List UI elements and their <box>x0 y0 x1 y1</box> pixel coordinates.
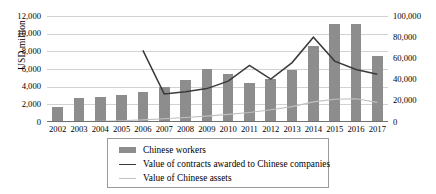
y-axis-right-tick: 100,000 <box>393 12 421 21</box>
x-axis-tick-label: 2011 <box>239 124 260 134</box>
legend-dark-line-swatch-icon <box>119 164 136 165</box>
x-axis-tick-label: 2002 <box>47 124 68 134</box>
x-axis-tick-label: 2014 <box>303 124 324 134</box>
x-axis-tick-label: 2007 <box>154 124 175 134</box>
y-axis-right-tick: 40,000 <box>393 75 417 84</box>
x-axis-tick-label: 2009 <box>196 124 217 134</box>
x-axis-tick-label: 2003 <box>68 124 89 134</box>
legend-bar-swatch-icon <box>119 147 136 153</box>
y-axis-left-tick: 6,000 <box>22 65 41 74</box>
y-axis-left-tick: 4,000 <box>22 82 41 91</box>
plot-area <box>47 16 388 122</box>
y-axis-left-tick: 0 <box>37 118 41 127</box>
line-value-of-chinese-assets <box>58 99 378 122</box>
y-axis-left-tick: 10,000 <box>17 29 41 38</box>
legend-item[interactable]: Chinese workers <box>108 143 328 157</box>
y-axis-left-ticks: 02,0004,0006,0008,00010,00012,000 <box>0 16 44 122</box>
legend-item[interactable]: Value of Chinese assets <box>108 171 328 185</box>
chart-legend: Chinese workersValue of contracts awarde… <box>107 138 329 188</box>
y-axis-right-tick: 20,000 <box>393 96 417 105</box>
y-axis-left-tick: 8,000 <box>22 47 41 56</box>
line-series-overlay <box>47 16 388 122</box>
x-axis-tick-label: 2005 <box>111 124 132 134</box>
x-axis-tick-label: 2012 <box>260 124 281 134</box>
x-axis-tick-label: 2010 <box>218 124 239 134</box>
y-axis-right-tick: 80,000 <box>393 33 417 42</box>
x-axis-tick-label: 2015 <box>324 124 345 134</box>
y-axis-left-tick: 12,000 <box>17 12 41 21</box>
y-axis-right-tick: 60,000 <box>393 54 417 63</box>
x-axis-tick-label: 2006 <box>132 124 153 134</box>
chart-figure: USD million 02,0004,0006,0008,00010,0001… <box>0 0 436 194</box>
x-axis-tick-label: 2017 <box>367 124 388 134</box>
y-axis-right-tick: 0 <box>393 118 397 127</box>
x-axis-tick-labels: 2002200320042005200620072008200920102011… <box>47 124 388 136</box>
y-axis-left-tick: 2,000 <box>22 100 41 109</box>
line-value-of-contracts <box>143 37 377 94</box>
legend-item-label: Chinese workers <box>143 145 206 155</box>
legend-item-label: Value of Chinese assets <box>143 173 232 183</box>
y-axis-right-ticks: 020,00040,00060,00080,000100,000 <box>390 16 436 122</box>
x-axis-tick-label: 2004 <box>90 124 111 134</box>
legend-item-label: Value of contracts awarded to Chinese co… <box>143 159 330 169</box>
legend-item[interactable]: Value of contracts awarded to Chinese co… <box>108 157 328 171</box>
x-axis-line <box>47 121 388 122</box>
x-axis-tick-label: 2013 <box>281 124 302 134</box>
x-axis-tick-label: 2008 <box>175 124 196 134</box>
legend-light-line-swatch-icon <box>119 178 136 179</box>
x-axis-tick-label: 2016 <box>345 124 366 134</box>
